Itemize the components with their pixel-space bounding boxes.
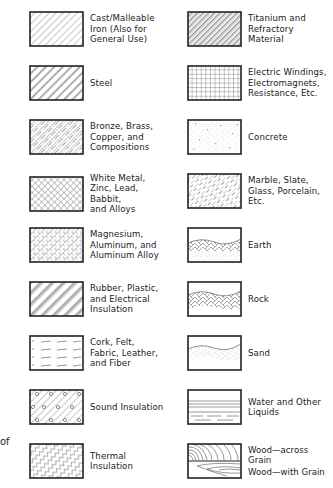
legend-item-earth: Earth [187,227,333,263]
legend-item-white-metal: White Metal, Zinc, Lead, Babbit, and All… [29,173,170,215]
legend-label: Concrete [248,132,333,142]
legend-label: Rock [248,294,333,304]
legend-label: Cast/Malleable Iron (Also for General Us… [90,13,170,44]
rubber-pattern-icon [29,281,84,317]
legend-label: Water and Other Liquids [248,397,333,418]
legend-label: Magnesium, Aluminum, and Aluminum Alloy [90,229,170,260]
magnesium-pattern-icon [29,227,84,263]
legend-label: Marble, Slate, Glass, Porcelain, Etc. [248,175,333,206]
water-pattern-icon [187,389,242,425]
legend-item-cast-iron: Cast/Malleable Iron (Also for General Us… [29,11,170,47]
legend-label: Thermal Insulation [90,451,170,472]
legend-label: Electric Windings, Electromagnets, Resis… [248,67,333,98]
legend-label: Sound Insulation [90,402,170,412]
legend-item-water: Water and Other Liquids [187,389,333,425]
legend-item-steel: Steel [29,65,170,101]
wood-labels: Wood—across Grain Wood—with Grain [248,443,333,479]
legend-item-sound-insulation: Sound Insulation [29,389,170,425]
bronze-pattern-icon [29,119,84,155]
legend-label: Steel [90,78,170,88]
cast-iron-pattern-icon [29,11,84,47]
sound-insulation-pattern-icon [29,389,84,425]
cropped-edge-text: of [0,436,10,447]
legend-item-titanium: Titanium and Refractory Material [187,11,333,47]
rock-pattern-icon [187,281,242,317]
cork-pattern-icon [29,335,84,371]
legend-item-electric-windings: Electric Windings, Electromagnets, Resis… [187,65,333,101]
legend-item-concrete: Concrete [187,119,333,155]
earth-pattern-icon [187,227,242,263]
wood-pattern-icon [187,443,242,479]
legend-item-magnesium: Magnesium, Aluminum, and Aluminum Alloy [29,227,170,263]
legend-label: Cork, Felt, Fabric, Leather, and Fiber [90,337,170,368]
legend-label: Earth [248,240,333,250]
legend-item-bronze: Bronze, Brass, Copper, and Compositions [29,119,170,155]
legend-item-marble: Marble, Slate, Glass, Porcelain, Etc. [187,173,333,209]
titanium-pattern-icon [187,11,242,47]
legend-label-wood-with: Wood—with Grain [248,467,333,477]
concrete-pattern-icon [187,119,242,155]
white-metal-pattern-icon [29,176,84,212]
legend-item-thermal-insulation: Thermal Insulation [29,443,170,479]
legend-label: Bronze, Brass, Copper, and Compositions [90,121,170,152]
sand-pattern-icon [187,335,242,371]
legend-item-wood: Wood—across Grain Wood—with Grain [187,443,333,479]
legend-label: Sand [248,348,333,358]
legend-label: Rubber, Plastic, and Electrical Insulati… [90,283,170,314]
legend-item-rock: Rock [187,281,333,317]
legend-item-rubber: Rubber, Plastic, and Electrical Insulati… [29,281,170,317]
legend-label-wood-across: Wood—across Grain [248,445,333,465]
legend-label: Titanium and Refractory Material [248,13,333,44]
thermal-insulation-pattern-icon [29,443,84,479]
electric-windings-pattern-icon [187,65,242,101]
steel-pattern-icon [29,65,84,101]
marble-pattern-icon [187,173,242,209]
legend-item-cork: Cork, Felt, Fabric, Leather, and Fiber [29,335,170,371]
legend-label: White Metal, Zinc, Lead, Babbit, and All… [90,173,170,215]
legend-item-sand: Sand [187,335,333,371]
